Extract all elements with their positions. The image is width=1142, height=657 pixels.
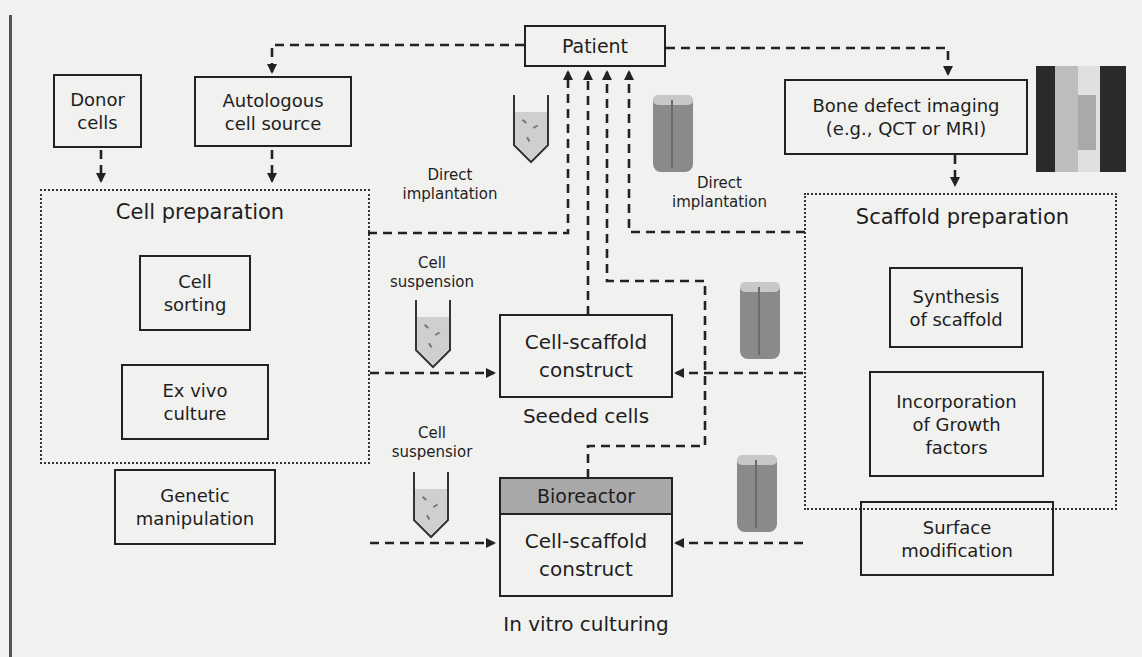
bone-scaffold-icon <box>737 455 777 532</box>
seeded-cells-label: Seeded cells <box>499 404 673 428</box>
ex-vivo-culture-node: Ex vivo culture <box>121 364 269 440</box>
patient-node: Patient <box>524 25 666 67</box>
autologous-cell-source-node: Autologous cell source <box>194 76 352 147</box>
surface-modification-node: Surface modification <box>860 501 1054 576</box>
cell-preparation-title: Cell preparation <box>100 200 300 224</box>
scaffold-preparation-title: Scaffold preparation <box>820 205 1105 229</box>
cell-suspension-label-2: Cell suspensior <box>377 424 487 462</box>
direct-implantation-label-right: Direct implantation <box>657 174 782 212</box>
genetic-manipulation-node: Genetic manipulation <box>114 469 276 545</box>
synthesis-of-scaffold-node: Synthesis of scaffold <box>889 267 1023 348</box>
direct-implantation-label-left: Direct implantation <box>390 166 510 204</box>
seeded-cell-scaffold-construct: Cell-scaffold construct <box>499 314 673 398</box>
bone-ct-image <box>1036 66 1126 172</box>
bioreactor-header: Bioreactor <box>499 477 673 515</box>
bioreactor-cell-scaffold-construct: Cell-scaffold construct <box>499 513 673 597</box>
bone-defect-imaging-node: Bone defect imaging (e.g., QCT or MRI) <box>784 79 1028 155</box>
bone-scaffold-icon <box>653 95 693 172</box>
cell-suspension-label-1: Cell suspension <box>377 254 487 292</box>
growth-factors-node: Incorporation of Growth factors <box>869 371 1044 477</box>
in-vitro-culturing-label: In vitro culturing <box>480 612 692 636</box>
donor-cells-node: Donor cells <box>53 74 142 148</box>
cell-sorting-node: Cell sorting <box>139 255 251 331</box>
test-tube-cell-suspension-icon <box>416 300 450 367</box>
bone-scaffold-icon <box>740 282 780 359</box>
test-tube-cell-suspension-icon <box>414 472 448 537</box>
test-tube-cell-suspension-icon <box>514 95 548 162</box>
